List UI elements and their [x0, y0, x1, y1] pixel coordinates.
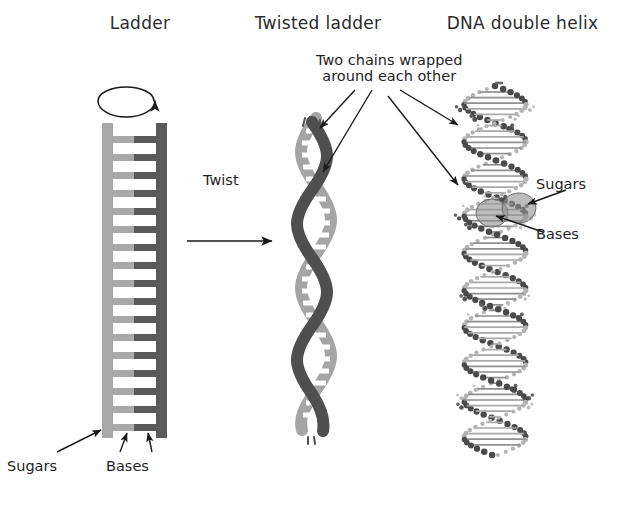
ladder-graphic — [57, 87, 167, 452]
ladder-rung — [110, 388, 159, 395]
ladder-bases-pointer-right-arrow-icon — [148, 433, 152, 452]
twist-step-label: Twist — [203, 172, 239, 188]
ladder-rung — [110, 154, 159, 161]
helix-label-sugars: Sugars — [536, 176, 586, 192]
panel-title-ladder: Ladder — [65, 13, 215, 33]
base-highlight-ellipse-icon — [476, 199, 508, 227]
dna-structure-diagram: Ladder Twisted ladder DNA double helix T… — [0, 0, 625, 506]
ladder-sugars-pointer-arrow-icon — [57, 430, 101, 452]
ladder-rung — [110, 370, 159, 377]
dna-double-helix-graphic — [454, 83, 566, 458]
helix-base-pair-rungs — [464, 92, 526, 445]
ladder-rung — [110, 406, 159, 413]
panel-title-dna-double-helix: DNA double helix — [420, 13, 625, 33]
ladder-rung — [110, 334, 159, 341]
ladder-rung — [110, 316, 159, 323]
ladder-rung — [110, 424, 159, 431]
ladder-rung — [110, 190, 159, 197]
ladder-rungs — [110, 136, 159, 431]
ladder-rung — [110, 262, 159, 269]
callout-arrow-to-helix-mid-icon — [388, 96, 458, 185]
twisted-rungs — [302, 131, 330, 415]
ladder-right-rail — [156, 123, 167, 438]
panel-title-twisted-ladder: Twisted ladder — [238, 13, 398, 33]
callout-line-1: Two chains wrapped — [316, 52, 462, 68]
twisted-front-strand — [297, 122, 327, 431]
ladder-label-sugars: Sugars — [7, 458, 57, 474]
rotation-arrow-icon — [98, 87, 155, 117]
callout-arrow-to-twisted-top-icon — [320, 90, 355, 128]
ladder-rung — [110, 172, 159, 179]
callout-two-chains: Two chains wrapped around each other — [316, 52, 462, 84]
ladder-label-bases: Bases — [106, 458, 149, 474]
twisted-strand-ends — [303, 117, 321, 444]
ladder-rung — [110, 280, 159, 287]
ladder-rung — [110, 226, 159, 233]
twisted-ladder-graphic — [297, 117, 331, 444]
ladder-rung — [110, 208, 159, 215]
ladder-rung — [110, 244, 159, 251]
helix-back-strand-atoms — [455, 84, 536, 457]
ladder-bases-pointer-left-arrow-icon — [120, 433, 127, 452]
callout-arrows — [320, 90, 458, 185]
callout-arrow-to-twisted-mid-icon — [323, 90, 372, 172]
sugar-highlight-ellipse-icon — [502, 193, 536, 223]
ladder-rung — [110, 352, 159, 359]
helix-sugars-pointer-arrow-icon — [528, 190, 566, 204]
ladder-rung — [110, 136, 159, 143]
diagram-graphics — [0, 0, 625, 506]
helix-front-strand-atoms — [454, 83, 535, 458]
callout-line-2: around each other — [316, 68, 462, 84]
helix-label-bases: Bases — [536, 226, 579, 242]
ladder-rung — [110, 298, 159, 305]
callout-arrow-to-helix-top-icon — [400, 90, 458, 125]
twisted-back-strand — [301, 118, 331, 430]
ladder-left-rail — [102, 123, 113, 438]
